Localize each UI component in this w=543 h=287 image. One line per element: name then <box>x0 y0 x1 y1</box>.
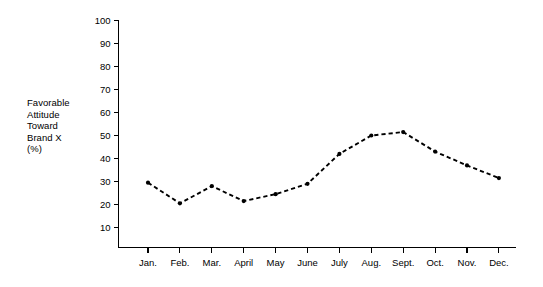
y-tick-label: 20 <box>100 199 111 210</box>
data-point <box>210 184 214 188</box>
x-tick-label: Jan. <box>139 257 157 268</box>
x-tick-label: June <box>297 257 318 268</box>
y-axis-tick-labels: 102030405060708090100 <box>95 15 111 233</box>
data-point <box>242 199 246 203</box>
x-tick-label: April <box>234 257 253 268</box>
data-point <box>146 181 150 185</box>
y-tick-label: 10 <box>100 222 111 233</box>
data-point <box>369 133 373 137</box>
y-tick-label: 30 <box>100 176 111 187</box>
x-tick-label: Aug. <box>362 257 382 268</box>
y-tick-label: 90 <box>100 38 111 49</box>
data-point <box>274 192 278 196</box>
y-tick-label: 70 <box>100 84 111 95</box>
data-point <box>433 150 437 154</box>
data-point <box>465 163 469 167</box>
y-tick-label: 50 <box>100 130 111 141</box>
series-line-brand-x <box>148 132 499 203</box>
x-tick-label: July <box>331 257 348 268</box>
chart-container: Favorable Attitude Toward Brand X (%) 10… <box>0 0 543 287</box>
y-tick-label: 100 <box>95 15 111 26</box>
data-point <box>497 176 501 180</box>
x-tick-label: Sept. <box>392 257 414 268</box>
data-point <box>178 201 182 205</box>
x-tick-label: Oct. <box>426 257 443 268</box>
x-tick-label: Mar. <box>203 257 221 268</box>
data-point <box>401 130 405 134</box>
line-chart-plot: 102030405060708090100 Jan.Feb.Mar.AprilM… <box>0 0 543 287</box>
y-tick-label: 40 <box>100 153 111 164</box>
data-point <box>305 182 309 186</box>
x-tick-label: Nov. <box>458 257 477 268</box>
x-tick-label: May <box>267 257 285 268</box>
y-tick-label: 60 <box>100 107 111 118</box>
y-axis-tick-marks <box>114 21 119 228</box>
x-axis-tick-marks <box>148 248 499 253</box>
x-tick-label: Feb. <box>170 257 189 268</box>
x-tick-label: Dec. <box>489 257 509 268</box>
x-axis-tick-labels: Jan.Feb.Mar.AprilMayJuneJulyAug.Sept.Oct… <box>139 257 509 268</box>
data-point <box>337 152 341 156</box>
y-tick-label: 80 <box>100 61 111 72</box>
